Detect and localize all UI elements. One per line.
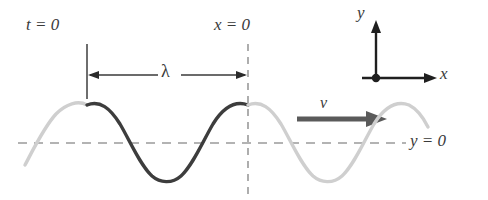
- label-axis-y: y: [357, 4, 365, 21]
- label-t-equals-zero: t = 0: [26, 16, 59, 33]
- label-x-equals-zero: x = 0: [214, 16, 250, 33]
- label-velocity: v: [320, 95, 327, 111]
- label-wavelength: λ: [161, 62, 170, 80]
- wave-figure: t = 0 x = 0 λ y = 0 y x v: [0, 0, 488, 200]
- label-axis-x: x: [440, 65, 448, 82]
- coordinate-axes-inset: [362, 20, 437, 83]
- wavelength-arrowhead-right: [236, 71, 247, 79]
- origin-dot-icon: [372, 74, 380, 82]
- x-axis-arrowhead-icon: [424, 73, 437, 83]
- wavelength-arrowhead-left: [88, 71, 99, 79]
- wave-segment-light-left: [25, 103, 87, 165]
- label-y-equals-zero: y = 0: [410, 132, 446, 149]
- y-axis-arrowhead-icon: [371, 20, 381, 33]
